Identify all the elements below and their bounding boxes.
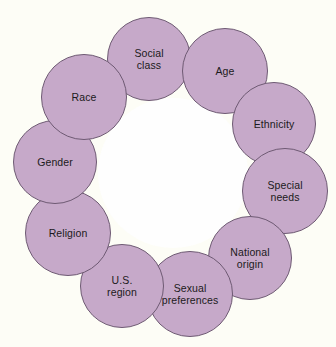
node-label-race: Race	[68, 91, 101, 104]
node-label-ethnicity: Ethnicity	[250, 118, 299, 131]
node-label-national-origin: National origin	[226, 246, 273, 271]
node-label-gender: Gender	[33, 156, 77, 169]
node-race: Race	[41, 54, 127, 140]
diversity-circle-diagram: Social class Age Ethnicity Special needs…	[0, 0, 336, 347]
node-label-social-class: Social class	[130, 47, 167, 72]
node-label-us-region: U.S. region	[103, 274, 141, 299]
node-label-age: Age	[212, 65, 239, 78]
node-label-sexual-preferences: Sexual preferences	[158, 282, 223, 307]
node-religion: Religion	[25, 190, 111, 276]
node-label-religion: Religion	[45, 227, 92, 240]
node-label-special-needs: Special needs	[263, 179, 306, 204]
